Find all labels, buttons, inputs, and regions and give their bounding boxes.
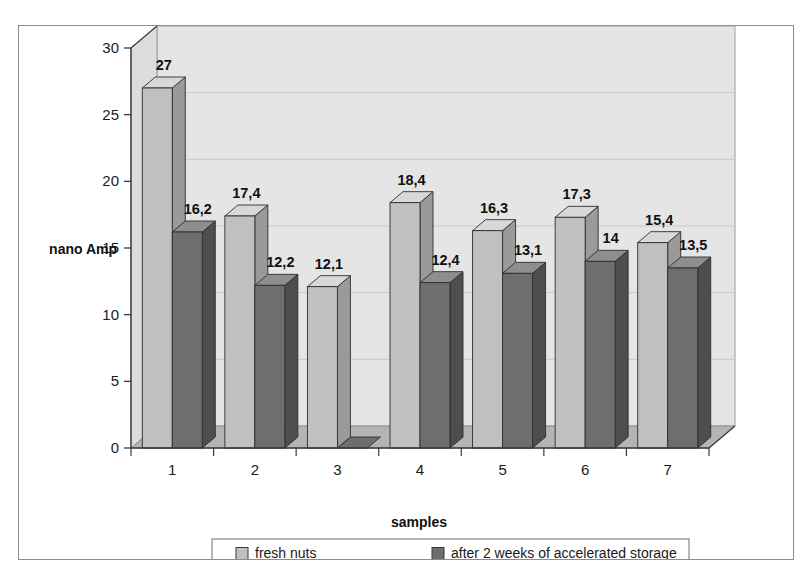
x-category-label-3: 3 (333, 461, 341, 478)
y-tick-label-20: 20 (102, 172, 119, 189)
value-label-series-2-cat-5: 13,1 (514, 242, 542, 258)
y-tick-label-0: 0 (111, 439, 119, 456)
bar-series-2-cat-2 (255, 274, 298, 448)
value-label-series-2-cat-6: 14 (603, 230, 619, 246)
bar-series-2-cat-5 (503, 262, 546, 448)
x-axis-categories: 1234567 (131, 448, 709, 478)
value-label-series-2-cat-2: 12,2 (266, 254, 294, 270)
x-axis-title: samples (391, 514, 447, 530)
x-category-label-2: 2 (251, 461, 259, 478)
x-category-label-4: 4 (416, 461, 424, 478)
x-category-label-7: 7 (664, 461, 672, 478)
bar-series-2-cat-6 (585, 250, 628, 448)
chart-legend: fresh nutsafter 2 weeks of accelerated s… (212, 539, 689, 559)
value-label-series-1-cat-7: 15,4 (645, 212, 673, 228)
y-tick-label-30: 30 (102, 39, 119, 56)
value-label-series-2-cat-4: 12,4 (431, 252, 459, 268)
value-label-series-1-cat-5: 16,3 (480, 200, 508, 216)
y-tick-label-25: 25 (102, 106, 119, 123)
bar-series-2-cat-1 (172, 221, 215, 448)
legend-label-series-2: after 2 weeks of accelerated storage (451, 545, 677, 559)
x-category-label-1: 1 (168, 461, 176, 478)
legend-swatch-series-1 (236, 548, 248, 560)
y-tick-label-10: 10 (102, 306, 119, 323)
x-category-label-6: 6 (581, 461, 589, 478)
bar-series-2-cat-4 (420, 272, 463, 448)
chart-frame: 051015202530 1234567 2716,217,412,212,11… (18, 25, 794, 560)
bar-chart-3d: 051015202530 1234567 2716,217,412,212,11… (19, 26, 793, 559)
bar-series-2-cat-7 (668, 257, 711, 448)
value-label-series-1-cat-6: 17,3 (563, 186, 591, 202)
value-label-series-2-cat-7: 13,5 (679, 237, 707, 253)
value-label-series-1-cat-4: 18,4 (397, 172, 425, 188)
y-tick-label-5: 5 (111, 372, 119, 389)
value-label-series-1-cat-3: 12,1 (315, 256, 343, 272)
legend-label-series-1: fresh nuts (255, 545, 316, 559)
bar-series-1-cat-3 (307, 276, 350, 448)
legend-swatch-series-2 (432, 548, 444, 560)
x-category-label-5: 5 (498, 461, 506, 478)
value-label-series-1-cat-1: 27 (156, 57, 172, 73)
y-axis-title: nano Amp (49, 241, 117, 257)
value-label-series-2-cat-1: 16,2 (184, 201, 212, 217)
value-label-series-1-cat-2: 17,4 (232, 185, 260, 201)
